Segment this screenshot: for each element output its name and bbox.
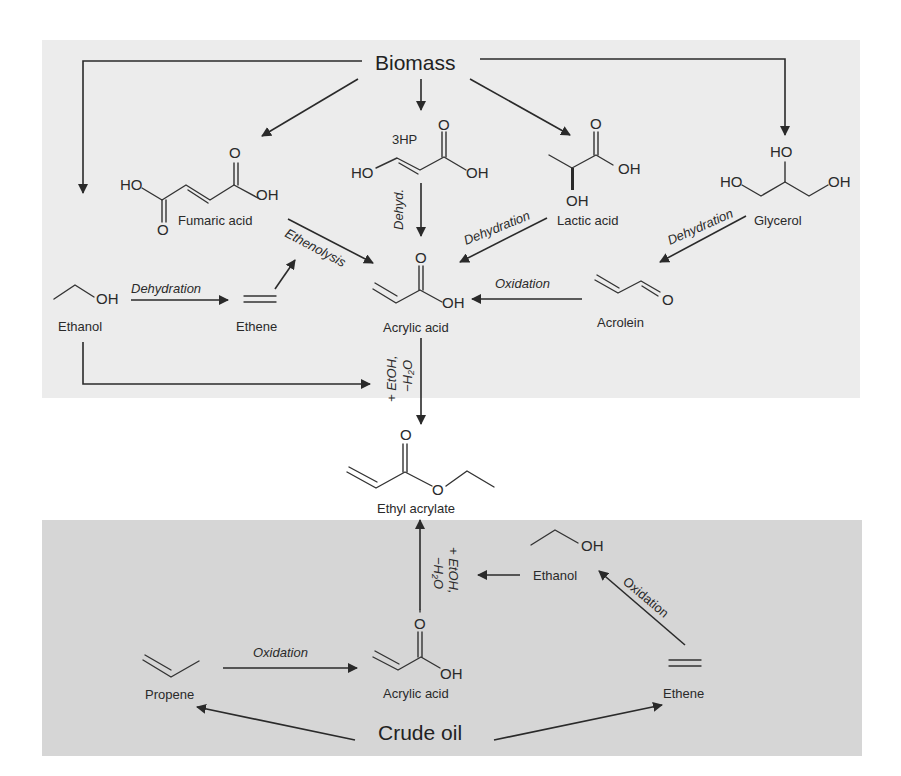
acrylic-acid-label-top: Acrylic acid [383, 320, 449, 335]
lactic-acid-label: Lactic acid [557, 213, 618, 228]
svg-text:O: O [415, 249, 427, 266]
ethanol-label-bottom: Ethanol [533, 568, 577, 583]
esterification-condition-bottom-2: −H₂O [431, 557, 446, 589]
svg-text:OH: OH [96, 290, 119, 307]
esterification-condition-top-2: −H₂O [400, 360, 415, 392]
svg-text:OH: OH [828, 173, 851, 190]
crude-oil-label: Crude oil [378, 721, 462, 744]
ethanol-dehydration-condition: Dehydration [131, 281, 201, 296]
glycerol-label: Glycerol [754, 213, 802, 228]
biomass-panel [42, 40, 860, 398]
ethanol-label-top: Ethanol [58, 319, 102, 334]
svg-text:HO: HO [351, 164, 374, 181]
ethene-label-top: Ethene [236, 319, 277, 334]
svg-text:OH: OH [466, 164, 489, 181]
svg-text:O: O [400, 426, 412, 443]
ethyl-acrylate-label: Ethyl acrylate [377, 501, 455, 516]
svg-text:HO: HO [770, 143, 793, 160]
svg-text:O: O [590, 115, 602, 132]
fumaric-acid-label: Fumaric acid [178, 213, 252, 228]
svg-text:OH: OH [442, 294, 465, 311]
acrolein-label: Acrolein [597, 315, 644, 330]
reaction-scheme: Biomass HO O O OH Fumaric acid 3HP HO O … [0, 0, 901, 776]
ethyl-acrylate-structure: O O [347, 426, 494, 498]
propene-label: Propene [145, 687, 194, 702]
svg-text:O: O [662, 291, 674, 308]
svg-text:O: O [229, 144, 241, 161]
biomass-label: Biomass [375, 51, 456, 74]
3hp-label: 3HP [392, 132, 417, 147]
svg-text:OH: OH [440, 665, 463, 682]
svg-text:O: O [432, 481, 444, 498]
3hp-dehyd-condition: Dehyd. [391, 189, 406, 230]
svg-text:OH: OH [618, 160, 641, 177]
svg-text:OH: OH [581, 537, 604, 554]
svg-text:O: O [438, 116, 450, 133]
propene-oxidation-condition: Oxidation [253, 645, 308, 660]
svg-text:OH: OH [256, 186, 279, 203]
svg-text:O: O [157, 221, 169, 238]
svg-text:HO: HO [720, 173, 743, 190]
acrolein-oxidation-condition: Oxidation [495, 276, 550, 291]
acrylic-acid-label-bottom: Acrylic acid [383, 686, 449, 701]
esterification-condition-top-1: + EtOH, [384, 355, 399, 402]
svg-text:O: O [414, 615, 426, 632]
svg-text:HO: HO [120, 176, 143, 193]
ethene-label-bottom: Ethene [663, 686, 704, 701]
esterification-condition-bottom-1: + EtOH, [446, 547, 461, 594]
svg-text:OH: OH [566, 192, 589, 209]
